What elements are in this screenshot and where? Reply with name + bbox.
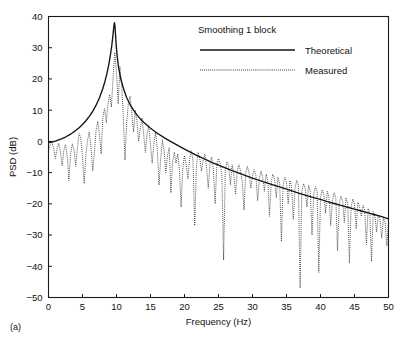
y-tick-label: −30 [26, 229, 42, 240]
x-tick-label: 0 [46, 301, 51, 312]
y-axis-title: PSD (dB) [7, 137, 18, 177]
x-tick-label: 15 [145, 301, 156, 312]
psd-figure: 05101520253035404550403020100−10−20−30−4… [0, 0, 405, 338]
measured-series [49, 52, 389, 288]
y-tick-label: 10 [32, 105, 43, 116]
legend-label-measured: Measured [305, 65, 347, 76]
x-tick-label: 30 [247, 301, 258, 312]
y-tick-label: −50 [26, 292, 42, 303]
legend-label-theoretical: Theoretical [305, 45, 352, 56]
x-axis-title: Frequency (Hz) [186, 316, 251, 327]
y-tick-label: −10 [26, 167, 42, 178]
legend: Smoothing 1 blockTheoreticalMeasured [198, 24, 352, 76]
panel-label: (a) [10, 322, 21, 332]
x-tick-label: 40 [315, 301, 326, 312]
y-tick-label: −40 [26, 261, 42, 272]
x-tick-label: 20 [179, 301, 190, 312]
x-tick-label: 5 [80, 301, 85, 312]
x-tick-label: 25 [213, 301, 224, 312]
y-tick-label: −20 [26, 198, 42, 209]
x-tick-label: 10 [111, 301, 122, 312]
plot-frame [49, 17, 389, 298]
x-tick-label: 50 [383, 301, 394, 312]
x-tick-label: 35 [281, 301, 292, 312]
y-tick-label: 0 [37, 136, 42, 147]
y-tick-label: 40 [32, 11, 43, 22]
y-tick-label: 30 [32, 42, 43, 53]
y-tick-label: 20 [32, 73, 43, 84]
psd-chart-svg: 05101520253035404550403020100−10−20−30−4… [0, 0, 405, 338]
data-layer [49, 23, 389, 288]
x-tick-label: 45 [349, 301, 360, 312]
legend-title: Smoothing 1 block [198, 24, 276, 35]
